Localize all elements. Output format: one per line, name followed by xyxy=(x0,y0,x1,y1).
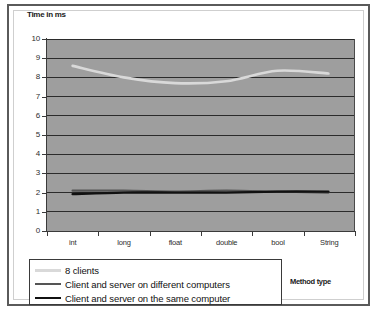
y-tick-label: 1 xyxy=(18,207,40,216)
y-tick-label: 0 xyxy=(18,226,40,235)
y-axis-title: Time in ms xyxy=(27,10,66,19)
y-tick-mark xyxy=(42,173,47,174)
x-tick-label: int xyxy=(47,238,98,247)
legend-label: Client and server on different computers xyxy=(65,279,230,290)
y-tick-label: 2 xyxy=(18,188,40,197)
x-tick-label: double xyxy=(201,238,252,247)
y-tick-mark xyxy=(42,39,47,40)
y-tick-mark xyxy=(42,154,47,155)
y-tick-mark xyxy=(42,135,47,136)
x-tick-mark xyxy=(252,232,253,236)
x-tick-mark xyxy=(150,232,151,236)
x-tick-mark xyxy=(201,232,202,236)
x-tick-label: String xyxy=(304,238,355,247)
x-tick-label: float xyxy=(150,238,201,247)
legend-item: Client and server on the same computer xyxy=(35,291,230,305)
y-tick-mark xyxy=(42,58,47,59)
y-tick-label: 8 xyxy=(18,72,40,81)
legend-label: 8 clients xyxy=(65,265,99,276)
y-tick-label: 9 xyxy=(18,53,40,62)
plot-area xyxy=(47,39,355,231)
y-tick-mark xyxy=(42,212,47,213)
y-tick-label: 3 xyxy=(18,168,40,177)
y-tick-label: 5 xyxy=(18,130,40,139)
series-canvas xyxy=(47,39,354,231)
legend-item: 8 clients xyxy=(35,263,99,277)
legend-label: Client and server on the same computer xyxy=(65,293,230,304)
y-tick-label: 10 xyxy=(18,34,40,43)
y-tick-mark xyxy=(42,116,47,117)
y-tick-label: 6 xyxy=(18,111,40,120)
x-tick-mark xyxy=(355,232,356,236)
legend-swatch xyxy=(35,269,61,272)
x-axis-title: Method type xyxy=(290,277,331,286)
series-line xyxy=(73,66,329,84)
legend-item: Client and server on different computers xyxy=(35,277,230,291)
y-tick-mark xyxy=(42,97,47,98)
legend-swatch xyxy=(35,297,61,299)
y-tick-label: 7 xyxy=(18,92,40,101)
x-tick-label: bool xyxy=(252,238,303,247)
x-tick-mark xyxy=(47,232,48,236)
x-tick-mark xyxy=(304,232,305,236)
x-tick-label: long xyxy=(98,238,149,247)
x-tick-mark xyxy=(98,232,99,236)
y-tick-label: 4 xyxy=(18,149,40,158)
chart-legend: 8 clientsClient and server on different … xyxy=(29,259,282,305)
y-tick-mark xyxy=(42,193,47,194)
legend-swatch xyxy=(35,283,61,285)
y-tick-mark xyxy=(42,77,47,78)
